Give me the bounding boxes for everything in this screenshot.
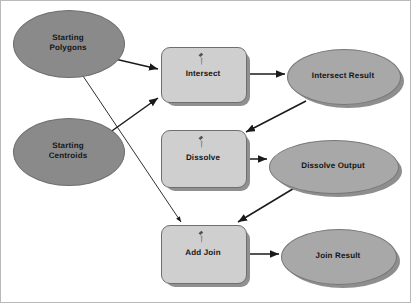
node-intersect-result[interactable]: Intersect Result [287, 49, 399, 103]
node-label-starting-polygons: Starting Polygons [49, 33, 86, 53]
node-label-join-result: Join Result [316, 251, 361, 261]
node-starting-centroids[interactable]: Starting Centroids [13, 118, 123, 184]
tool-hammer-icon [197, 52, 209, 70]
node-dissolve[interactable]: Dissolve [161, 130, 245, 186]
node-intersect[interactable]: Intersect [161, 47, 245, 101]
node-label-intersect: Intersect [186, 69, 221, 79]
tool-hammer-icon [197, 230, 209, 248]
node-add-join[interactable]: Add Join [161, 225, 245, 282]
node-label-dissolve-output: Dissolve Output [301, 161, 365, 171]
edge-intersect-result-to-dissolve[interactable] [246, 101, 306, 132]
node-dissolve-output[interactable]: Dissolve Output [269, 140, 397, 192]
node-starting-polygons[interactable]: Starting Polygons [13, 10, 123, 76]
tool-hammer-icon [197, 135, 209, 153]
node-label-add-join: Add Join [185, 248, 220, 258]
edge-dissolve-output-to-add-join[interactable] [238, 187, 296, 222]
node-label-intersect-result: Intersect Result [312, 71, 374, 81]
node-label-starting-centroids: Starting Centroids [49, 141, 88, 161]
model-diagram-canvas: Starting Polygons Starting Centroids Int… [0, 0, 411, 303]
node-join-result[interactable]: Join Result [281, 229, 395, 283]
node-label-dissolve: Dissolve [186, 153, 220, 163]
